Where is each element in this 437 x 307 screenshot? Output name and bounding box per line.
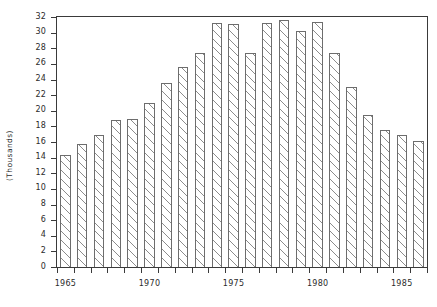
- bar: [161, 83, 171, 267]
- bar: [127, 119, 137, 267]
- bar: [144, 103, 154, 267]
- x-tick-label: 1965: [55, 278, 77, 289]
- x-tick-mark: [393, 268, 394, 273]
- x-tick-mark: [410, 268, 411, 273]
- bar: [195, 53, 205, 267]
- y-tick-label: 32: [35, 12, 46, 22]
- x-tick-mark: [107, 268, 108, 273]
- x-tick-mark: [225, 268, 226, 273]
- x-tick-mark: [360, 268, 361, 273]
- x-tick-mark: [158, 268, 159, 273]
- bar-series: [57, 17, 427, 267]
- x-tick-mark: [377, 268, 378, 273]
- x-tick-mark: [57, 268, 58, 273]
- y-tick-label: 10: [35, 183, 46, 193]
- bar: [296, 31, 306, 267]
- x-tick-mark: [124, 268, 125, 273]
- x-tick-mark: [242, 268, 243, 273]
- bar: [77, 144, 87, 267]
- x-tick-label: 1970: [139, 278, 161, 289]
- x-tick-mark: [343, 268, 344, 273]
- bar: [262, 23, 272, 267]
- bar: [60, 155, 70, 267]
- x-tick-mark: [208, 268, 209, 273]
- x-axis-ticks: [57, 268, 427, 276]
- bar: [212, 23, 222, 267]
- y-tick-label: 0: [41, 262, 46, 272]
- y-tick-label: 16: [35, 137, 46, 147]
- bar: [380, 130, 390, 267]
- bar: [346, 87, 356, 267]
- bar: [363, 115, 373, 267]
- bar: [397, 135, 407, 267]
- x-tick-mark: [326, 268, 327, 273]
- bar: [111, 120, 121, 267]
- bar: [178, 67, 188, 267]
- y-tick-label: 24: [35, 74, 46, 84]
- bar: [312, 22, 322, 267]
- y-tick-label: 8: [41, 199, 46, 209]
- x-tick-mark: [427, 268, 428, 273]
- y-axis-ticks: 02468101214161820222426283032: [0, 16, 56, 268]
- x-tick-mark: [292, 268, 293, 273]
- bar: [94, 135, 104, 267]
- x-tick-mark: [175, 268, 176, 273]
- bar: [413, 141, 423, 267]
- x-tick-mark: [309, 268, 310, 273]
- x-tick-mark: [91, 268, 92, 273]
- y-tick-label: 6: [41, 215, 46, 225]
- bar: [279, 20, 289, 267]
- bar: [329, 53, 339, 267]
- y-tick-label: 20: [35, 105, 46, 115]
- x-tick-mark: [192, 268, 193, 273]
- bar-chart: (Thousands) 0246810121416182022242628303…: [0, 0, 437, 307]
- y-tick-label: 26: [35, 58, 46, 68]
- x-tick-label: 1975: [223, 278, 245, 289]
- x-tick-mark: [74, 268, 75, 273]
- x-tick-mark: [276, 268, 277, 273]
- y-tick-label: 28: [35, 43, 46, 53]
- y-tick-label: 2: [41, 246, 46, 256]
- bar: [228, 24, 238, 267]
- x-tick-label: 1980: [307, 278, 329, 289]
- x-tick-label: 1985: [391, 278, 413, 289]
- y-tick-label: 22: [35, 90, 46, 100]
- bar: [245, 53, 255, 267]
- y-tick-label: 18: [35, 121, 46, 131]
- x-tick-mark: [259, 268, 260, 273]
- y-tick-label: 4: [41, 230, 46, 240]
- x-axis-labels: 19651970197519801985: [0, 278, 437, 294]
- y-tick-label: 14: [35, 152, 46, 162]
- y-tick-label: 12: [35, 168, 46, 178]
- y-tick-label: 30: [35, 27, 46, 37]
- x-tick-mark: [141, 268, 142, 273]
